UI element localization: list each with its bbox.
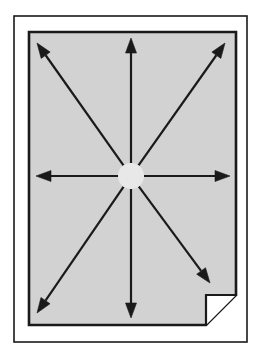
expansion-diagram-svg — [0, 0, 259, 357]
figure-root: A framed page with a folded bottom-right… — [0, 0, 259, 357]
arrow-origin-hub — [118, 163, 144, 189]
